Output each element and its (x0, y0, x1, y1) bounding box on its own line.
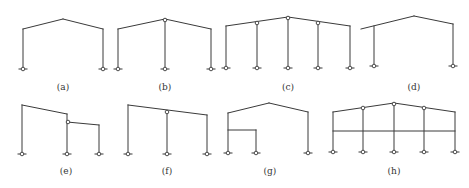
pin-support-icon (203, 152, 211, 156)
pin-support-icon (314, 66, 322, 70)
hinge-icon (66, 120, 70, 124)
pin-support-icon (95, 152, 103, 156)
hinge-icon (316, 21, 320, 25)
pin-support-icon (207, 67, 215, 71)
pin-support-icon (284, 66, 292, 70)
frame-h (329, 102, 459, 154)
pin-support-icon (359, 150, 367, 154)
hinge-icon (392, 102, 396, 106)
frame-member (22, 105, 67, 114)
hinge-icon (361, 106, 365, 110)
frame-label-c: (c) (282, 82, 294, 92)
pin-support-icon (252, 151, 260, 155)
pin-support-icon (161, 67, 169, 71)
pin-support-icon (420, 150, 428, 154)
pin-support-icon (370, 64, 378, 68)
pin-support-icon (449, 64, 457, 68)
frame-label-f: (f) (162, 166, 172, 176)
frame-member (228, 103, 269, 113)
pin-support-icon (114, 67, 122, 71)
frame-b (114, 18, 215, 71)
frame-f (124, 105, 211, 156)
pin-support-icon (253, 66, 261, 70)
hinge-icon (163, 18, 167, 22)
frame-label-b: (b) (159, 82, 172, 92)
pin-support-icon (329, 150, 337, 154)
frame-member (118, 19, 165, 29)
pin-support-icon (346, 66, 354, 70)
hinge-icon (422, 106, 426, 110)
frame-member (165, 19, 211, 29)
pin-support-icon (304, 151, 312, 155)
frame-label-e: (e) (60, 166, 72, 176)
pin-support-icon (390, 150, 398, 154)
pin-support-icon (63, 152, 71, 156)
hinge-icon (165, 110, 169, 114)
frame-d (361, 16, 457, 68)
frame-member (67, 122, 99, 125)
pin-support-icon (99, 67, 107, 71)
frame-e (18, 105, 103, 156)
pin-support-icon (19, 67, 27, 71)
frame-label-d: (d) (408, 82, 421, 92)
frame-label-h: (h) (388, 166, 401, 176)
frame-member (361, 16, 414, 29)
pin-support-icon (451, 150, 459, 154)
pin-support-icon (224, 151, 232, 155)
pin-support-icon (124, 152, 132, 156)
pin-support-icon (163, 152, 171, 156)
frame-member (414, 16, 453, 24)
frame-member (23, 19, 63, 29)
hinge-icon (255, 21, 259, 25)
frame-g (224, 103, 312, 155)
frame-a (19, 19, 107, 71)
pin-support-icon (18, 152, 26, 156)
frame-c (222, 16, 354, 70)
frame-label-a: (a) (57, 82, 69, 92)
frame-label-g: (g) (264, 166, 277, 176)
frame-member (269, 103, 308, 112)
frame-member (63, 19, 103, 29)
pin-support-icon (222, 66, 230, 70)
frame-canvas (0, 0, 469, 188)
hinge-icon (286, 16, 290, 20)
